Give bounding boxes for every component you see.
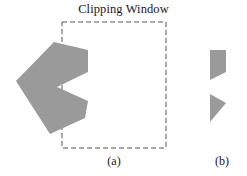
clipping-figure: Clipping Window (a) (b) bbox=[0, 0, 247, 176]
clipped-lower-triangle bbox=[210, 94, 226, 122]
panel-caption-b: (b) bbox=[182, 154, 247, 169]
clipped-upper-quad bbox=[210, 50, 226, 80]
clipping-window-rect bbox=[62, 22, 166, 148]
figure-canvas bbox=[0, 0, 247, 176]
panel-caption-a: (a) bbox=[74, 154, 154, 169]
source-polygon bbox=[16, 42, 88, 134]
